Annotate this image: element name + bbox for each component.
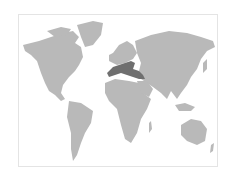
land-masses (23, 21, 215, 161)
north-america (23, 31, 83, 101)
greenland (77, 21, 103, 47)
australia (181, 119, 207, 145)
south-america (67, 101, 93, 161)
world-map (19, 15, 219, 168)
southeast-asia-islands (175, 103, 195, 111)
map-frame (18, 14, 218, 167)
new-zealand (210, 143, 214, 153)
europe (109, 41, 137, 65)
japan (203, 59, 207, 73)
madagascar (149, 121, 152, 133)
